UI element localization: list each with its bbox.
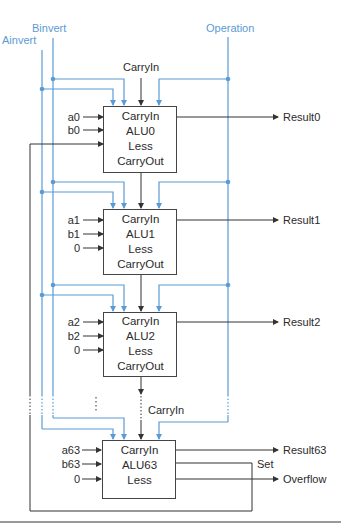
result1-label: Result1 [283,214,320,226]
result2-label: Result2 [283,316,320,328]
alu0-port-carryin: CarryIn [104,109,177,124]
operation-label: Operation [206,22,254,34]
alu63-port-carryin: CarryIn [103,443,176,458]
input-a1: a1 [60,214,80,226]
alu1-port-carryout: CarryOut [104,257,177,272]
alu2-port-carryin: CarryIn [104,314,177,329]
alu2-port-less: Less [104,344,177,359]
result63-label: Result63 [283,444,326,456]
alu63-port-less: Less [103,473,176,488]
input-a2: a2 [60,316,80,328]
carryin-top-label: CarryIn [123,61,159,73]
input-a0: a0 [60,111,80,123]
result0-label: Result0 [283,111,320,123]
alu63: CarryIn ALU63 Less [103,443,176,488]
input-a63: a63 [56,444,80,456]
input-less63: 0 [56,473,80,485]
overflow-label: Overflow [283,473,326,485]
input-b0: b0 [60,124,80,136]
alu1: CarryIn ALU1 Less CarryOut [104,212,177,272]
set-label: Set [257,458,274,470]
alu0: CarryIn ALU0 Less CarryOut [104,109,177,169]
alu1-name: ALU1 [104,227,177,242]
alu1-port-carryin: CarryIn [104,212,177,227]
input-b63: b63 [56,458,80,470]
alu0-name: ALU0 [104,124,177,139]
input-less1: 0 [60,242,80,254]
binvert-label: Binvert [32,22,66,34]
alu2: CarryIn ALU2 Less CarryOut [104,314,177,374]
alu0-port-carryout: CarryOut [104,154,177,169]
input-b1: b1 [60,228,80,240]
ainvert-label: Ainvert [2,34,36,46]
input-less2: 0 [60,344,80,356]
alu2-port-carryout: CarryOut [104,359,177,374]
alu0-port-less: Less [104,139,177,154]
carryin-last-label: CarryIn [148,404,184,416]
input-b2: b2 [60,330,80,342]
alu2-name: ALU2 [104,329,177,344]
alu63-name: ALU63 [103,458,176,473]
alu1-port-less: Less [104,242,177,257]
